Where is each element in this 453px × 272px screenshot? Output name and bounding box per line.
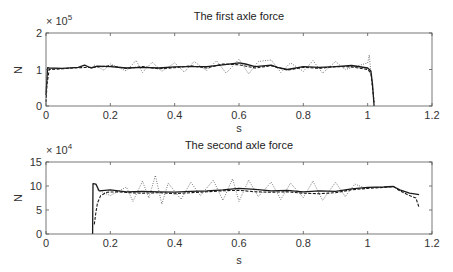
series-line-dashed (94, 187, 419, 225)
x-tick-label: 1.2 (424, 237, 439, 249)
y-tick-label: 15 (30, 156, 42, 168)
y-axis-label: N (12, 194, 24, 202)
chart-canvas: The first axle force × 105 00.20.40.60.8… (0, 0, 453, 272)
x-tick-label: 1 (365, 237, 371, 249)
y-tick-label: 0 (36, 100, 42, 112)
x-tick-label: 0.8 (296, 237, 311, 249)
x-axis-label: s (236, 254, 242, 266)
axes-frame (46, 33, 432, 106)
plot-area (93, 175, 420, 234)
subplot-first-axle-force: The first axle force × 105 00.20.40.60.8… (12, 10, 440, 134)
x-tick-label: 0.2 (103, 237, 118, 249)
series-line-solid (46, 63, 374, 106)
y-exponent-label: × 105 (46, 13, 73, 27)
plot-area (46, 55, 374, 106)
x-tick-label: 1.2 (424, 109, 439, 121)
x-tick-label: 0.4 (167, 109, 182, 121)
figure: The first axle force × 105 00.20.40.60.8… (0, 0, 453, 272)
y-axis-label: N (12, 66, 24, 74)
y-tick-label: 5 (36, 204, 42, 216)
subplot-second-axle-force: The second axle force × 104 00.20.40.60.… (12, 139, 440, 266)
y-tick-label: 10 (30, 180, 42, 192)
series-line-dashed (46, 64, 374, 102)
axis-ticks: 00.20.40.60.811.2012 (36, 27, 440, 121)
x-tick-label: 0.6 (231, 109, 246, 121)
y-tick-label: 0 (36, 228, 42, 240)
y-tick-label: 2 (36, 27, 42, 39)
subplot-title: The first axle force (194, 10, 284, 22)
y-exponent-label: × 104 (46, 142, 73, 156)
x-tick-label: 0.8 (296, 109, 311, 121)
series-line-dotted (98, 175, 368, 204)
y-tick-label: 1 (36, 64, 42, 76)
x-tick-label: 0.6 (231, 237, 246, 249)
x-tick-label: 0.4 (167, 237, 182, 249)
x-axis-label: s (236, 122, 242, 134)
x-tick-label: 0 (43, 237, 49, 249)
subplot-title: The second axle force (185, 139, 293, 151)
series-line-solid (93, 184, 420, 234)
x-tick-label: 0 (43, 109, 49, 121)
axes-frame (46, 162, 432, 234)
x-tick-label: 1 (365, 109, 371, 121)
x-tick-label: 0.2 (103, 109, 118, 121)
axis-ticks: 00.20.40.60.811.2051015 (30, 156, 440, 249)
